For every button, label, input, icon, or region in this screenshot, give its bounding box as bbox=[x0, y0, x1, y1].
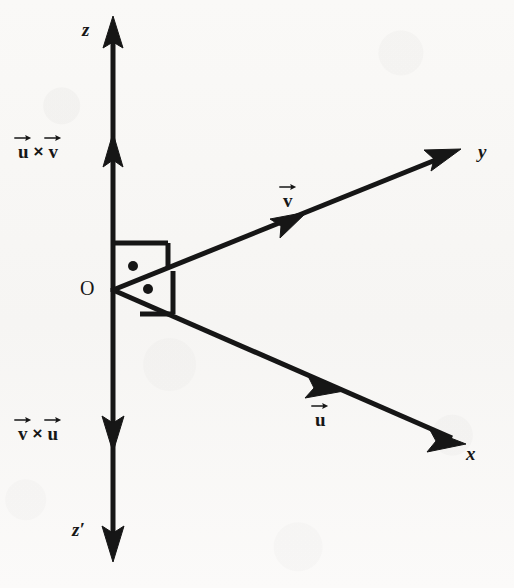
z-axis-label: z bbox=[82, 20, 89, 39]
right-angle-marker-z-x-dot bbox=[143, 284, 153, 294]
y-axis-label: y bbox=[478, 142, 486, 161]
x-axis-label: x bbox=[466, 444, 476, 463]
figure-canvas: z z′ y x O u × v bbox=[0, 0, 514, 588]
vector-u-label: u bbox=[315, 401, 326, 429]
cross-product-u-cross-v: u × v bbox=[18, 133, 58, 161]
right-angle-marker-z-y-dot bbox=[128, 261, 138, 271]
cross-operator-symbol: × bbox=[33, 425, 43, 443]
vector-v-symbol: v bbox=[18, 415, 28, 443]
right-angle-marker-z-y bbox=[113, 243, 168, 271]
vector-v-symbol: v bbox=[49, 133, 59, 161]
vector-arrow-accent-icon bbox=[14, 415, 31, 423]
cross-product-v-cross-u: v × u bbox=[18, 415, 58, 443]
vector-arrow-accent-icon bbox=[14, 133, 31, 141]
vector-arrow-accent-icon bbox=[44, 415, 61, 423]
vector-u-symbol: u bbox=[47, 415, 58, 443]
vector-arrow-accent-icon bbox=[44, 133, 61, 141]
vector-u-symbol: u bbox=[18, 133, 29, 161]
vector-arrow-accent-icon bbox=[311, 401, 328, 409]
vector-diagram bbox=[0, 0, 514, 588]
origin-label: O bbox=[80, 278, 94, 298]
vector-v-label: v bbox=[283, 182, 293, 210]
z-prime-axis-label: z′ bbox=[72, 520, 85, 539]
vector-arrow-accent-icon bbox=[279, 182, 296, 190]
cross-operator-symbol: × bbox=[34, 143, 44, 161]
